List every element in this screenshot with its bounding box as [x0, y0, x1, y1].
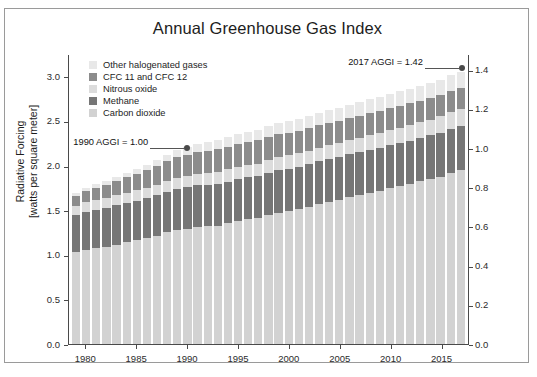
bar-segment-carbon-dioxide — [143, 238, 151, 344]
bar-segment-methane — [416, 138, 424, 182]
bar-1995[interactable] — [234, 55, 242, 344]
legend-item-nitrous-oxide[interactable]: Nitrous oxide — [89, 83, 207, 95]
bar-segment-carbon-dioxide — [72, 252, 80, 344]
legend-item-carbon-dioxide[interactable]: Carbon dioxide — [89, 107, 207, 119]
bar-segment-other-halogenated-gases — [426, 83, 434, 98]
bar-segment-methane — [133, 201, 141, 241]
bar-segment-cfc-11-and-cfc-12 — [234, 144, 242, 167]
bar-1994[interactable] — [224, 55, 232, 344]
bar-1999[interactable] — [274, 55, 282, 344]
bar-segment-methane — [234, 179, 242, 221]
legend-item-cfc-11-and-cfc-12[interactable]: CFC 11 and CFC 12 — [89, 71, 207, 83]
bar-2008[interactable] — [366, 55, 374, 344]
bar-2000[interactable] — [285, 55, 293, 344]
bar-2003[interactable] — [315, 55, 323, 344]
bar-segment-carbon-dioxide — [457, 170, 465, 344]
bar-segment-cfc-11-and-cfc-12 — [396, 106, 404, 128]
y-axis-left-label-text: Radiative Forcing — [14, 121, 26, 203]
bar-segment-carbon-dioxide — [153, 236, 161, 344]
bar-segment-nitrous-oxide — [436, 116, 444, 132]
bar-segment-other-halogenated-gases — [234, 134, 242, 144]
bar-1979[interactable] — [72, 55, 80, 344]
bar-2013[interactable] — [416, 55, 424, 344]
bar-segment-nitrous-oxide — [72, 206, 80, 215]
bar-segment-other-halogenated-gases — [325, 110, 333, 123]
bar-segment-cfc-11-and-cfc-12 — [447, 91, 455, 112]
bar-1996[interactable] — [244, 55, 252, 344]
bar-segment-methane — [325, 159, 333, 202]
y-tick-right-0.6: 0.6 — [475, 221, 488, 232]
bar-segment-nitrous-oxide — [285, 155, 293, 168]
bar-2006[interactable] — [345, 55, 353, 344]
y-tickmark-right — [469, 188, 473, 189]
y-tick-left-3.0: 3.0 — [47, 71, 60, 82]
bar-segment-cfc-11-and-cfc-12 — [386, 108, 394, 130]
bar-2005[interactable] — [335, 55, 343, 344]
bar-2011[interactable] — [396, 55, 404, 344]
bar-segment-methane — [355, 152, 363, 195]
bar-2007[interactable] — [355, 55, 363, 344]
x-tick-1980: 1980 — [75, 353, 96, 364]
bar-segment-cfc-11-and-cfc-12 — [305, 128, 313, 151]
bar-segment-nitrous-oxide — [376, 133, 384, 148]
bar-segment-methane — [345, 154, 353, 197]
bar-segment-carbon-dioxide — [193, 227, 201, 344]
bar-2009[interactable] — [376, 55, 384, 344]
bar-segment-cfc-11-and-cfc-12 — [426, 98, 434, 119]
bar-segment-cfc-11-and-cfc-12 — [214, 149, 222, 172]
bar-segment-carbon-dioxide — [355, 195, 363, 344]
legend-item-methane[interactable]: Methane — [89, 95, 207, 107]
bar-segment-cfc-11-and-cfc-12 — [112, 181, 120, 195]
bar-segment-cfc-11-and-cfc-12 — [264, 137, 272, 160]
bar-segment-carbon-dioxide — [285, 211, 293, 344]
bar-segment-carbon-dioxide — [183, 229, 191, 344]
bar-segment-cfc-11-and-cfc-12 — [102, 185, 110, 198]
legend-label: Carbon dioxide — [103, 108, 166, 118]
bar-2014[interactable] — [426, 55, 434, 344]
bar-segment-cfc-11-and-cfc-12 — [204, 151, 212, 173]
bar-1998[interactable] — [264, 55, 272, 344]
bar-segment-cfc-11-and-cfc-12 — [345, 118, 353, 140]
bar-segment-nitrous-oxide — [102, 198, 110, 208]
x-tick-2000: 2000 — [278, 353, 299, 364]
bar-segment-cfc-11-and-cfc-12 — [285, 133, 293, 156]
x-tick-2015: 2015 — [431, 353, 452, 364]
legend-item-other-halogenated-gases[interactable]: Other halogenated gases — [89, 59, 207, 71]
bar-segment-nitrous-oxide — [214, 172, 222, 184]
bar-segment-nitrous-oxide — [345, 140, 353, 154]
y-tickmark-right — [469, 149, 473, 150]
bar-segment-carbon-dioxide — [173, 230, 181, 344]
y-tick-right-1.2: 1.2 — [475, 103, 488, 114]
bar-segment-methane — [163, 192, 171, 233]
bar-segment-methane — [274, 170, 282, 213]
y-tick-left-2.5: 2.5 — [47, 115, 60, 126]
bar-2004[interactable] — [325, 55, 333, 344]
x-tick-1985: 1985 — [126, 353, 147, 364]
bar-segment-methane — [396, 143, 404, 186]
bar-2015[interactable] — [436, 55, 444, 344]
legend-swatch-icon — [89, 73, 97, 81]
x-tickmark — [289, 345, 290, 349]
bar-segment-carbon-dioxide — [325, 202, 333, 344]
bar-1997[interactable] — [254, 55, 262, 344]
bar-segment-nitrous-oxide — [163, 181, 171, 192]
bar-segment-methane — [123, 203, 131, 242]
bar-segment-cfc-11-and-cfc-12 — [315, 125, 323, 148]
bar-2016[interactable] — [447, 55, 455, 344]
bar-segment-methane — [214, 184, 222, 226]
bar-2012[interactable] — [406, 55, 414, 344]
bar-segment-methane — [254, 176, 262, 218]
bar-2001[interactable] — [295, 55, 303, 344]
legend-label: Methane — [103, 96, 139, 106]
bar-segment-other-halogenated-gases — [345, 105, 353, 118]
bar-2002[interactable] — [305, 55, 313, 344]
bar-2010[interactable] — [386, 55, 394, 344]
bar-segment-other-halogenated-gases — [295, 119, 303, 131]
bar-segment-carbon-dioxide — [244, 219, 252, 344]
y-tick-left-0.5: 0.5 — [47, 294, 60, 305]
bar-segment-nitrous-oxide — [355, 138, 363, 152]
bar-segment-other-halogenated-gases — [406, 89, 414, 104]
bar-2017[interactable] — [457, 55, 465, 344]
bar-segment-carbon-dioxide — [92, 248, 100, 344]
bar-1993[interactable] — [214, 55, 222, 344]
